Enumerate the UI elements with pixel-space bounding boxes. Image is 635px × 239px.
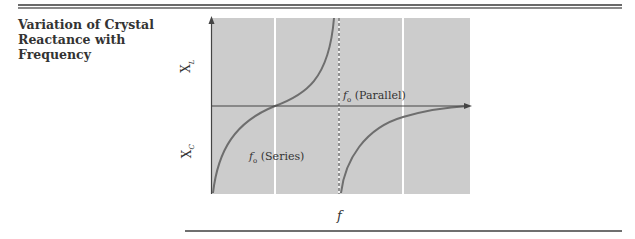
reactance-chart	[0, 0, 635, 239]
label-fo-parallel: fo (Parallel)	[343, 89, 406, 104]
y-label-xc: XC	[180, 144, 196, 158]
x-axis-label: f	[337, 208, 342, 223]
bottom-rule	[185, 230, 622, 232]
y-label-xl: XL	[179, 60, 195, 73]
label-fo-series: fo (Series)	[249, 150, 304, 165]
